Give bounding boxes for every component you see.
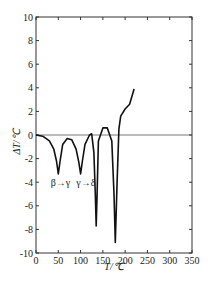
annotations: β→γγ→δ [51,177,96,188]
dta-chart: 050100150200250300350-10-8-6-4-20246810 … [0,0,215,289]
y-tick-label: -4 [25,177,33,188]
y-tick-label: 4 [28,82,33,93]
x-axis-label: T/℃ [104,261,125,272]
dta-curve [36,89,134,242]
y-tick-label: 10 [23,12,33,23]
x-tick-label: 350 [185,255,200,266]
y-tick-label: 0 [28,130,33,141]
x-tick-label: 0 [34,255,39,266]
x-tick-label: 300 [162,255,177,266]
y-tick-label: -8 [25,224,33,235]
transition-label: γ→δ [75,177,95,188]
x-tick-label: 50 [53,255,63,266]
y-tick-label: 2 [28,106,33,117]
y-tick-label: -6 [25,200,33,211]
y-tick-label: -2 [25,153,33,164]
y-tick-label: 6 [28,59,33,70]
transition-label: β→γ [51,177,71,188]
y-tick-label: -10 [20,248,33,259]
data-series [36,89,134,242]
x-tick-label: 100 [73,255,88,266]
y-tick-label: 8 [28,35,33,46]
x-tick-label: 250 [140,255,155,266]
y-axis-label: ΔT/℃ [11,127,22,155]
